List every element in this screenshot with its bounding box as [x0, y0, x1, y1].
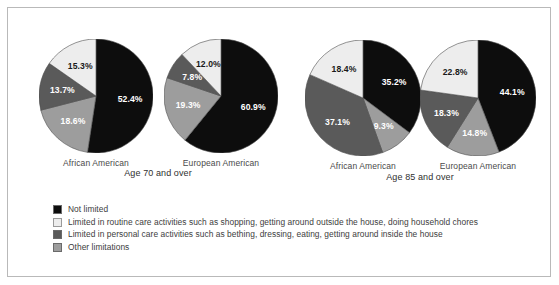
legend-label: Other limitations — [68, 242, 129, 252]
legend-label: Limited in routine care activities such … — [68, 217, 478, 227]
legend-swatch — [53, 230, 62, 239]
pie-slice-value: 7.8% — [182, 72, 202, 82]
pie-chart: 52.4%18.6%13.7%15.3% — [39, 39, 153, 153]
panel-label: Age 85 and over — [340, 172, 500, 182]
legend-item: Other limitations — [53, 242, 533, 255]
panel-label: Age 70 and over — [78, 168, 238, 178]
pie-slice-value: 13.7% — [50, 85, 75, 95]
legend-label: Limited in personal care activities such… — [68, 229, 443, 239]
pie-slice-value: 12.0% — [196, 59, 221, 69]
pie-canvas: 44.1%14.8%18.3%22.8% — [420, 40, 536, 156]
pie-slice-value: 18.6% — [61, 116, 86, 126]
pie-slice-value: 37.1% — [325, 117, 350, 127]
pie-slice-value: 15.3% — [68, 61, 93, 71]
pie-slice-value: 18.4% — [332, 64, 357, 74]
pie-slice-value: 22.8% — [443, 67, 468, 77]
legend-label: Not limited — [68, 204, 108, 214]
chart-legend: Not limitedLimited in routine care activ… — [53, 204, 533, 254]
pie-slice-value: 44.1% — [500, 87, 525, 97]
pie-slice-value: 52.4% — [118, 94, 143, 104]
pie-slice-value: 19.3% — [176, 100, 201, 110]
legend-swatch — [53, 243, 62, 252]
pie-chart: 60.9%19.3%7.8%12.0% — [164, 39, 278, 153]
legend-item: Limited in routine care activities such … — [53, 217, 533, 230]
pie-chart: 44.1%14.8%18.3%22.8% — [420, 40, 536, 156]
pie-canvas: 52.4%18.6%13.7%15.3% — [39, 39, 153, 153]
pie-slice-value: 14.8% — [462, 128, 487, 138]
pie-group-label: African American — [303, 161, 423, 171]
pie-canvas: 60.9%19.3%7.8%12.0% — [164, 39, 278, 153]
pie-slice-value: 18.3% — [434, 108, 459, 118]
legend-swatch — [53, 205, 62, 214]
legend-swatch — [53, 218, 62, 227]
pie-group-label: European American — [418, 161, 538, 171]
pie-group-label: European American — [161, 158, 281, 168]
legend-item: Not limited — [53, 204, 533, 217]
pie-canvas: 35.2%9.3%37.1%18.4% — [305, 40, 421, 156]
pie-slice-value: 60.9% — [241, 102, 266, 112]
pie-chart: 35.2%9.3%37.1%18.4% — [305, 40, 421, 156]
pie-slice-value: 9.3% — [374, 121, 394, 131]
legend-item: Limited in personal care activities such… — [53, 229, 533, 242]
chart-figure: 52.4%18.6%13.7%15.3%African American60.9… — [0, 0, 559, 285]
chart-frame: 52.4%18.6%13.7%15.3%African American60.9… — [7, 7, 551, 277]
pie-slice-value: 35.2% — [382, 77, 407, 87]
pie-group-label: African American — [36, 158, 156, 168]
